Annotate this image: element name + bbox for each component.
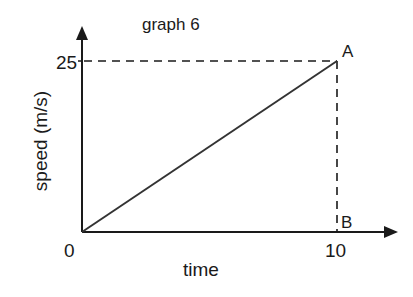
y-axis-label: speed (m/s) bbox=[31, 91, 50, 191]
speed-line bbox=[82, 61, 337, 232]
y-tick-label-25: 25 bbox=[56, 53, 77, 72]
chart-title: graph 6 bbox=[142, 16, 200, 33]
speed-time-graph: graph 6 25 0 10 A B time speed (m/s) bbox=[0, 0, 413, 297]
x-axis-label: time bbox=[183, 260, 219, 279]
point-b-label: B bbox=[341, 214, 352, 231]
x-axis-arrow-icon bbox=[384, 226, 398, 238]
x-tick-label-10: 10 bbox=[325, 241, 346, 260]
x-tick-label-0: 0 bbox=[64, 241, 75, 260]
point-a-label: A bbox=[342, 43, 353, 60]
y-axis-arrow-icon bbox=[76, 26, 88, 40]
